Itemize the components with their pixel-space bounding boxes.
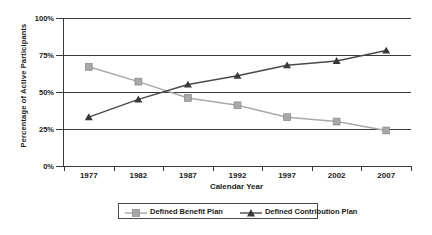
triangle-data-marker [382,47,390,54]
y-axis-tick-label: 25% [39,125,54,134]
y-axis-tick [56,129,64,130]
x-axis-tick [312,166,313,171]
x-axis-tick-label: 2002 [328,171,346,180]
x-axis-tick [213,166,214,171]
x-axis-tick [262,166,263,171]
x-axis-tick-label: 1982 [129,171,147,180]
x-axis-title: Calendar Year [63,182,410,191]
chart-legend: Defined Benefit Plan Defined Contributio… [118,203,318,219]
x-axis-tick-label: 1987 [179,171,197,180]
legend-label-defined-benefit-plan: Defined Benefit Plan [150,207,223,216]
square-marker-icon [125,205,147,217]
x-axis-tick [163,166,164,171]
series-layer [64,18,411,166]
square-data-marker [284,114,291,121]
y-axis-tick [56,166,64,167]
legend-label-defined-contribution-plan: Defined Contribution Plan [265,207,358,216]
square-data-marker [185,95,192,102]
x-axis-tick-label: 1977 [80,171,98,180]
square-data-marker [234,102,241,109]
y-axis-tick-label: 75% [39,51,54,60]
y-axis-tick-label: 100% [35,14,54,23]
y-axis-tick [56,55,64,56]
legend-item-defined-contribution-plan[interactable]: Defined Contribution Plan [223,204,358,218]
x-axis-tick [361,166,362,171]
legend-item-defined-benefit-plan[interactable]: Defined Benefit Plan [119,204,223,218]
y-axis-tick-label: 50% [39,88,54,97]
x-axis-tick-label: 1992 [229,171,247,180]
square-data-marker [85,63,92,70]
x-axis-tick [411,166,412,171]
triangle-marker-icon [240,205,262,217]
plot-area: 0%25%50%75%100% 197719821987199219972002… [63,18,411,167]
chart-figure: Percentage of Active Participants 0%25%5… [0,0,432,235]
y-axis-tick [56,92,64,93]
y-axis-tick-label: 0% [43,162,54,171]
square-data-marker [135,78,142,85]
x-axis-tick-label: 2007 [377,171,395,180]
y-axis-title: Percentage of Active Participants [19,16,28,156]
x-axis-tick [114,166,115,171]
x-axis-tick [64,166,65,171]
y-axis-tick [56,18,64,19]
square-data-marker [333,118,340,125]
square-data-marker [383,127,390,134]
x-axis-tick-label: 1997 [278,171,296,180]
